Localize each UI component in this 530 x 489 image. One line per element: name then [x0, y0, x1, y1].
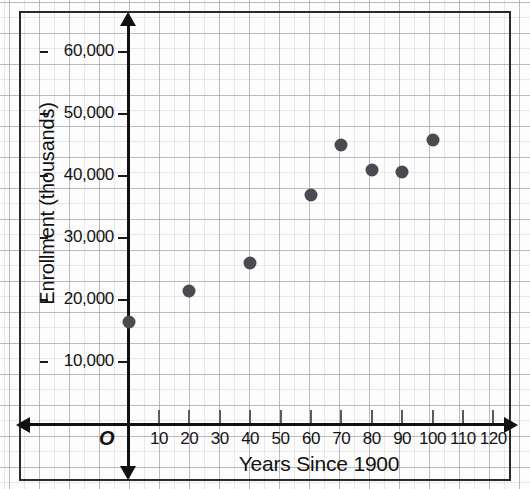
x-tick-mark: [280, 410, 282, 423]
x-tick-mark: [432, 410, 434, 423]
x-tick-label: 10: [150, 429, 168, 449]
x-tick-label: 120: [480, 429, 507, 449]
x-tick-label: 20: [180, 429, 198, 449]
scatter-plot-screenshot: 10,00020,00030,00040,00050,00060,000 102…: [0, 0, 530, 489]
x-axis-line: [25, 423, 509, 426]
data-point: [365, 163, 378, 176]
x-tick-mark: [401, 410, 403, 423]
data-point: [335, 139, 348, 152]
x-tick-mark: [492, 410, 494, 423]
x-tick-label: 100: [419, 429, 446, 449]
x-axis-title: Years Since 1900: [129, 452, 509, 476]
y-axis-up-arrow-icon: [120, 12, 136, 26]
data-point: [122, 315, 135, 328]
y-tick-mark: [118, 113, 127, 115]
x-tick-label: 60: [302, 429, 320, 449]
y-axis-title: Enrollment (thousands): [36, 44, 59, 364]
data-point: [426, 134, 439, 147]
y-tick-mark: [118, 51, 127, 53]
origin-label: O: [99, 427, 115, 450]
data-point: [183, 284, 196, 297]
x-tick-label: 70: [332, 429, 350, 449]
x-tick-mark: [371, 410, 373, 423]
x-tick-label: 90: [393, 429, 411, 449]
x-tick-mark: [310, 410, 312, 423]
x-tick-label: 50: [272, 429, 290, 449]
x-tick-mark: [158, 410, 160, 423]
x-tick-label: 40: [241, 429, 259, 449]
y-tick-mark: [118, 237, 127, 239]
y-axis-line: [127, 22, 130, 477]
x-tick-mark: [219, 410, 221, 423]
x-tick-mark: [462, 410, 464, 423]
x-tick-mark: [340, 410, 342, 423]
x-tick-label: 30: [211, 429, 229, 449]
y-tick-mark: [118, 361, 127, 363]
x-tick-mark: [249, 410, 251, 423]
x-tick-label: 110: [450, 429, 476, 449]
data-point: [244, 256, 257, 269]
x-axis-left-arrow-icon: [16, 417, 30, 433]
x-tick-mark: [188, 410, 190, 423]
y-tick-mark: [118, 299, 127, 301]
x-tick-label: 80: [363, 429, 381, 449]
data-point: [396, 165, 409, 178]
data-point: [304, 188, 317, 201]
y-tick-mark: [118, 175, 127, 177]
